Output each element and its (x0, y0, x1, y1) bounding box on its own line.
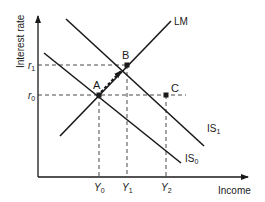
r0-tick-label: r0 (28, 90, 35, 102)
y1-tick-label: Y1 (122, 182, 133, 194)
y2-tick-label: Y2 (161, 182, 172, 194)
y-axis-title: Interest rate (15, 14, 26, 68)
is1-label: IS1 (207, 123, 220, 135)
r1-tick-label: r1 (28, 60, 35, 72)
point-a-marker (97, 93, 102, 98)
is-lm-diagram: A B C LM IS1 IS0 r1 r0 Y0 Y1 Y2 Income I… (0, 0, 265, 202)
point-b-marker (125, 63, 130, 68)
a-to-b-arrow (101, 71, 121, 92)
point-a-label: A (93, 79, 101, 91)
lm-label: LM (174, 16, 188, 27)
is0-label: IS0 (185, 153, 198, 165)
point-b-label: B (122, 49, 129, 61)
x-axis-title: Income (218, 185, 251, 196)
is0-curve (44, 53, 181, 163)
y0-tick-label: Y0 (94, 182, 105, 194)
point-c-label: C (171, 82, 179, 94)
point-c-marker (164, 93, 169, 98)
